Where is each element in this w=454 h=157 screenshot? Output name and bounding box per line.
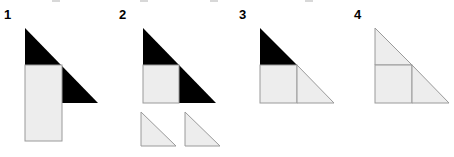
figure-label-1: 1 — [4, 8, 11, 21]
figure-1-light-rectangle — [25, 65, 62, 141]
figure-4-light-bottom-right-triangle — [412, 65, 449, 103]
figure-2 — [141, 28, 220, 146]
figure-1 — [25, 28, 98, 141]
figure-4-light-top-triangle — [375, 28, 412, 65]
figure-3 — [260, 28, 334, 103]
figure-3-light-bottom-right-triangle — [297, 65, 334, 103]
figure-label-3: 3 — [239, 8, 246, 21]
figure-4 — [375, 28, 449, 103]
figure-2-loose-triangle-left — [141, 112, 176, 146]
figure-3-black-top-triangle — [260, 28, 297, 65]
figure-label-2: 2 — [119, 8, 126, 21]
figure-label-4: 4 — [354, 8, 361, 21]
figure-panel: 1 2 3 4 — [0, 0, 454, 157]
figure-2-loose-triangle-right — [185, 112, 220, 146]
geometry-figures-svg — [0, 0, 454, 157]
figure-2-light-square-inset — [143, 65, 179, 103]
figure-3-light-square — [260, 65, 297, 103]
figure-4-light-square — [375, 65, 412, 103]
